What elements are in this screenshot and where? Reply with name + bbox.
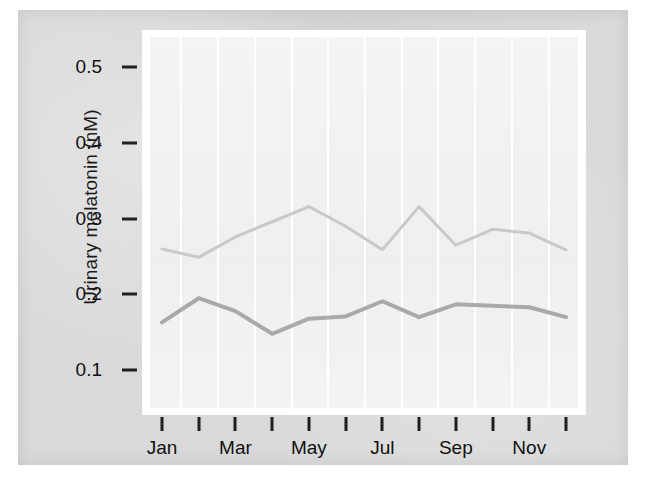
x-axis: JanMarMayJulSepNov xyxy=(0,0,647,487)
figure-root: Urinary melatonin (nM) 0.10.20.30.40.5 J… xyxy=(0,0,647,487)
x-tick-label: Jan xyxy=(147,437,178,459)
x-tick-mark xyxy=(234,417,237,431)
x-tick-mark xyxy=(565,417,568,431)
x-tick-label: Nov xyxy=(512,437,546,459)
x-tick-mark xyxy=(307,417,310,431)
x-tick-mark xyxy=(197,417,200,431)
x-tick-label: May xyxy=(291,437,327,459)
x-tick-mark xyxy=(161,417,164,431)
x-tick-mark xyxy=(271,417,274,431)
x-tick-label: Jul xyxy=(370,437,394,459)
x-tick-mark xyxy=(454,417,457,431)
x-tick-mark xyxy=(381,417,384,431)
x-tick-mark xyxy=(491,417,494,431)
x-tick-label: Sep xyxy=(439,437,473,459)
x-tick-mark xyxy=(344,417,347,431)
x-tick-mark xyxy=(418,417,421,431)
x-tick-label: Mar xyxy=(219,437,252,459)
x-tick-mark xyxy=(528,417,531,431)
